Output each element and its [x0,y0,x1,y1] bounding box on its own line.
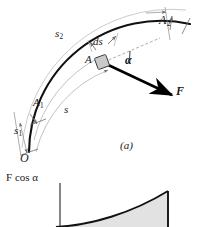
label-arc-s1: s1 [14,125,22,138]
label-point-a2: A2 [159,14,171,28]
tangent-reference-line [104,38,160,62]
guide-arc-outer [22,9,186,148]
work-energy-figure: A2 s2 ds A α F A1 s s1 O (a) F cos α [0,0,202,227]
dimension-arc-s [36,70,108,152]
dimension-arc-s2 [34,57,100,140]
caption-panel-a: (a) [120,140,133,151]
label-element-ds: ds [93,36,103,47]
tick-a2 [182,18,190,34]
particle-marker [94,54,109,69]
label-arc-s: s [64,104,68,115]
label-force-f: F [176,85,184,97]
force-vector-f [104,63,172,95]
label-point-a1: A1 [33,97,44,110]
panel-b-shaded-area [60,192,168,227]
label-origin-o: O [20,152,29,164]
label-f-cos-alpha: F cos α [6,172,38,183]
particle-path-curve [29,21,190,152]
label-particle-a: A [85,54,92,65]
label-angle-alpha: α [125,54,132,66]
label-arc-s2: s2 [55,28,63,41]
